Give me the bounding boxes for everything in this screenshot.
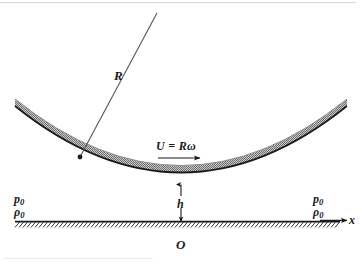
density-subscript-right: 0 <box>319 210 323 220</box>
physics-diagram <box>0 0 362 265</box>
radius-indicator <box>78 13 157 159</box>
scan-artifact-top <box>0 2 356 3</box>
scan-artifact-bottom <box>3 258 153 259</box>
origin-label: O <box>176 238 185 251</box>
shell-band-fill <box>15 99 347 173</box>
radius-label: R <box>114 69 123 82</box>
gap-label: h <box>177 198 184 210</box>
radius-line <box>80 13 157 157</box>
density-subscript-left: 0 <box>20 210 24 220</box>
density-label-right: ρ0 <box>313 206 324 220</box>
x-axis-label: x <box>349 214 355 226</box>
radius-contact-dot <box>78 155 83 160</box>
curved-shell <box>15 99 347 173</box>
velocity-label: U = Rω <box>156 140 196 152</box>
shell-upper-edge <box>15 99 347 166</box>
ground-wall <box>15 220 347 227</box>
density-label-left: ρ0 <box>14 206 25 220</box>
ground-hatching <box>15 222 339 227</box>
